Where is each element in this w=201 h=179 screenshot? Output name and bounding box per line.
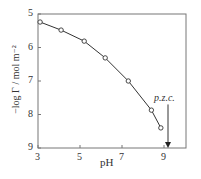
x-tick-label: 3 (35, 151, 40, 162)
y-tick-label: 5 (28, 7, 33, 18)
chart (0, 0, 201, 179)
x-tick-label: 7 (119, 151, 124, 162)
x-axis-label: pH (100, 156, 113, 168)
x-tick-label: 5 (77, 151, 82, 162)
data-point (126, 79, 130, 83)
data-point (103, 56, 107, 60)
y-axis-label: −log Γ / mol m⁻² (10, 25, 21, 135)
data-point (149, 108, 153, 112)
data-point (82, 39, 86, 43)
data-point (159, 126, 163, 130)
data-points (38, 20, 163, 130)
x-tick-label: 9 (161, 151, 166, 162)
y-tick-label: 7 (28, 74, 33, 85)
data-point (38, 20, 42, 24)
y-tick-label: 6 (28, 41, 33, 52)
arrow-head-icon (165, 142, 171, 148)
axis-ticks (38, 14, 164, 148)
data-point (59, 28, 63, 32)
plot-frame (38, 14, 186, 148)
y-tick-label: 8 (28, 108, 33, 119)
pzc-annotation: p.z.c. (154, 92, 175, 103)
y-tick-label: 9 (28, 141, 33, 152)
fit-curve (40, 22, 161, 128)
